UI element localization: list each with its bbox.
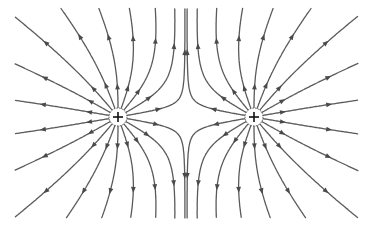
field-line	[16, 100, 110, 115]
arrow-icon	[214, 38, 219, 44]
arrow-icon	[252, 83, 257, 89]
arrow-icon	[87, 129, 95, 136]
arrow-icon	[76, 33, 83, 41]
arrow-icon	[171, 43, 176, 49]
charge-right	[245, 108, 263, 126]
field-line-diagram	[0, 0, 370, 225]
field-line	[61, 9, 115, 109]
field-line	[15, 17, 112, 110]
arrow-icon	[263, 81, 270, 88]
field-line	[239, 8, 251, 108]
arrow-icon	[171, 180, 176, 186]
arrow-icon	[87, 98, 95, 105]
field-line	[15, 64, 110, 113]
field-line	[262, 122, 358, 171]
arrow-icon	[153, 38, 158, 44]
arrow-icon	[325, 74, 332, 81]
field-line	[121, 8, 133, 108]
arrow-icon	[195, 43, 200, 49]
arrow-icon	[196, 180, 201, 186]
arrow-icon	[236, 35, 241, 41]
arrow-icon	[279, 97, 287, 104]
field-line	[257, 9, 311, 109]
charges	[109, 108, 263, 126]
arrow-icon	[103, 143, 110, 150]
field-line	[16, 119, 110, 134]
charge-left	[109, 108, 127, 126]
arrow-icon	[236, 187, 241, 193]
arrow-icon	[107, 188, 113, 195]
arrow-icon	[131, 187, 136, 193]
field-line	[15, 124, 112, 217]
field-line	[216, 8, 248, 110]
field-line	[15, 122, 110, 171]
arrow-icon	[115, 83, 120, 89]
field-line	[260, 124, 358, 218]
arrow-icon	[252, 143, 257, 149]
arrow-icon	[131, 35, 136, 41]
field-line	[263, 119, 358, 134]
field-lines	[15, 8, 358, 218]
arrow-icon	[115, 143, 120, 149]
arrow-icon	[41, 74, 48, 81]
arrow-icon	[262, 143, 269, 150]
field-line	[67, 126, 115, 218]
arrow-icon	[285, 188, 292, 196]
arrow-icon	[289, 33, 296, 41]
field-line	[260, 17, 358, 111]
field-line	[263, 100, 358, 115]
arrow-icon	[259, 188, 265, 195]
arrow-icon	[41, 153, 48, 160]
arrow-icon	[279, 130, 287, 137]
field-line	[262, 63, 358, 112]
arrow-icon	[152, 184, 157, 190]
field-line	[121, 126, 133, 218]
arrow-icon	[325, 153, 332, 160]
field-line	[124, 8, 156, 110]
field-line	[257, 126, 305, 218]
arrow-icon	[102, 81, 109, 88]
arrow-icon	[214, 184, 219, 190]
field-line	[239, 126, 251, 218]
arrow-icon	[80, 188, 87, 196]
